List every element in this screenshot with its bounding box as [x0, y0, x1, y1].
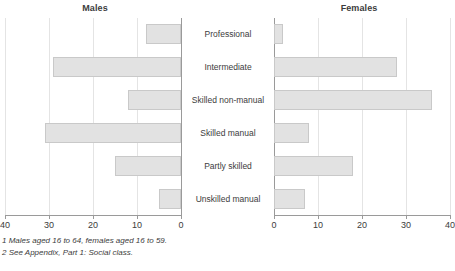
bar-males-partly-skilled — [115, 156, 181, 176]
footnote-group: 1 Males aged 16 to 64, females aged 16 t… — [2, 235, 442, 259]
gridline — [93, 18, 94, 215]
plot-area-females — [274, 18, 450, 215]
category-label: Intermediate — [182, 62, 274, 72]
bar-females-intermediate — [274, 57, 397, 77]
bar-males-skilled-manual — [45, 123, 181, 143]
gridline — [362, 18, 363, 215]
axis-tick — [5, 215, 6, 219]
axis-tick — [93, 215, 94, 219]
footnote: 1 Males aged 16 to 64, females aged 16 t… — [2, 235, 442, 247]
panel-title-females: Females — [264, 3, 454, 13]
bar-males-professional — [146, 24, 181, 44]
axis-tick-label: 10 — [132, 220, 142, 230]
gridline — [49, 18, 50, 215]
bar-females-unskilled-manual — [274, 189, 305, 209]
bar-females-partly-skilled — [274, 156, 353, 176]
axis-tick — [450, 215, 451, 219]
gridline — [5, 18, 6, 215]
bar-males-unskilled-manual — [159, 189, 181, 209]
plot-area-males — [5, 18, 181, 215]
axis-line — [181, 18, 182, 216]
bar-males-intermediate — [53, 57, 181, 77]
gridline — [318, 18, 319, 215]
axis-tick — [181, 215, 182, 219]
axis-tick-label: 40 — [0, 220, 10, 230]
category-label: Partly skilled — [182, 161, 274, 171]
gridline — [450, 18, 451, 215]
axis-tick-label: 30 — [44, 220, 54, 230]
axis-tick — [362, 215, 363, 219]
axis-tick — [49, 215, 50, 219]
footnote: 2 See Appendix, Part 1: Social class. — [2, 247, 442, 259]
axis-tick-label: 10 — [313, 220, 323, 230]
axis-tick-label: 0 — [178, 220, 183, 230]
gridline — [406, 18, 407, 215]
axis-tick-label: 0 — [271, 220, 276, 230]
axis-tick — [406, 215, 407, 219]
bar-males-skilled-non-manual — [128, 90, 181, 110]
panel-title-males: Males — [0, 3, 190, 13]
axis-line — [274, 18, 275, 216]
category-label: Unskilled manual — [182, 194, 274, 204]
axis-tick-label: 20 — [88, 220, 98, 230]
axis-tick — [137, 215, 138, 219]
gridline — [137, 18, 138, 215]
axis-tick-label: 40 — [445, 220, 455, 230]
bar-females-skilled-non-manual — [274, 90, 432, 110]
bar-females-professional — [274, 24, 283, 44]
axis-tick — [318, 215, 319, 219]
category-label: Skilled manual — [182, 128, 274, 138]
axis-tick — [274, 215, 275, 219]
axis-tick-label: 20 — [357, 220, 367, 230]
category-label: Professional — [182, 29, 274, 39]
bar-females-skilled-manual — [274, 123, 309, 143]
axis-tick-label: 30 — [401, 220, 411, 230]
category-label: Skilled non-manual — [182, 95, 274, 105]
